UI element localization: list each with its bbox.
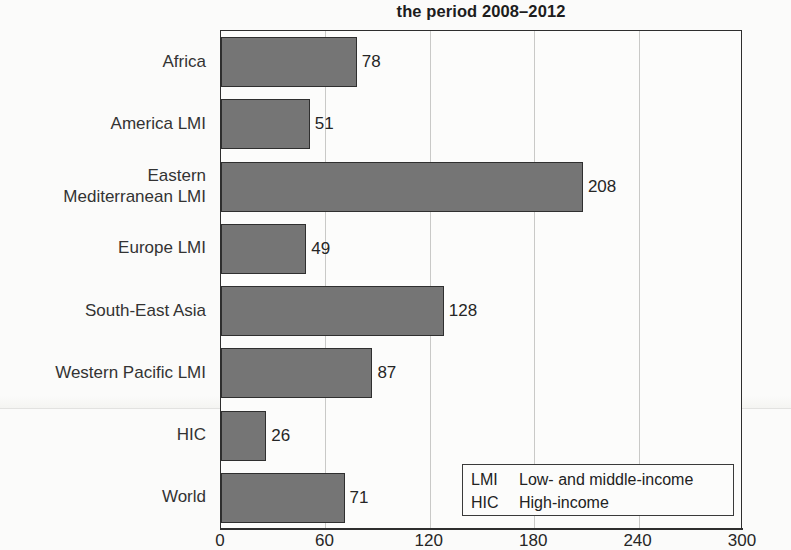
bar-series: 785120849128872671 [221, 31, 741, 528]
legend-row: HIC High-income [471, 491, 733, 514]
bar[interactable] [221, 99, 310, 149]
x-axis-tick-label: 180 [519, 531, 547, 550]
category-label: South-East Asia [0, 300, 214, 321]
x-axis-tick-label: 300 [728, 531, 756, 550]
category-label: Eastern Mediterranean LMI [0, 165, 214, 207]
category-label: Africa [0, 51, 214, 72]
legend-description: Low- and middle-income [519, 468, 733, 491]
legend-box: LMI Low- and middle-income HIC High-inco… [462, 464, 734, 516]
bar-value-label: 49 [306, 239, 330, 259]
bar[interactable] [221, 473, 345, 523]
legend-key: LMI [471, 468, 519, 491]
plot-area: 785120849128872671 [220, 30, 742, 528]
category-axis-labels: AfricaAmerica LMIEastern Mediterranean L… [0, 30, 214, 528]
x-axis-tick-labels: 060120180240300 [0, 531, 791, 550]
x-axis-tick-label: 240 [623, 531, 651, 550]
bar-value-label: 128 [444, 301, 477, 321]
legend-key: HIC [471, 491, 519, 514]
bar-value-label: 78 [357, 52, 381, 72]
x-axis-tick-label: 120 [415, 531, 443, 550]
bar-row[interactable]: 51 [221, 99, 741, 149]
category-label: Western Pacific LMI [0, 362, 214, 383]
bar[interactable] [221, 162, 583, 212]
bar-value-label: 208 [583, 177, 616, 197]
x-axis-tick-label: 0 [215, 531, 224, 550]
x-axis-tick-label: 60 [315, 531, 334, 550]
bar[interactable] [221, 286, 444, 336]
category-label: HIC [0, 424, 214, 445]
category-label: America LMI [0, 113, 214, 134]
bar-value-label: 87 [372, 363, 396, 383]
bar[interactable] [221, 37, 357, 87]
bar-value-label: 51 [310, 114, 334, 134]
bar-row[interactable]: 49 [221, 224, 741, 274]
chart-page: the period 2008–2012 AfricaAmerica LMIEa… [0, 0, 791, 550]
bar-value-label: 26 [266, 426, 290, 446]
bar[interactable] [221, 348, 372, 398]
category-label: World [0, 486, 214, 507]
bar-row[interactable]: 78 [221, 37, 741, 87]
legend-description: High-income [519, 491, 733, 514]
legend-row: LMI Low- and middle-income [471, 468, 733, 491]
gridline [743, 31, 744, 528]
bar-row[interactable]: 128 [221, 286, 741, 336]
bar-row[interactable]: 208 [221, 162, 741, 212]
bar[interactable] [221, 411, 266, 461]
bar-row[interactable]: 87 [221, 348, 741, 398]
bar-value-label: 71 [345, 488, 369, 508]
x-axis-line [220, 528, 743, 530]
bar[interactable] [221, 224, 306, 274]
bar-row[interactable]: 26 [221, 411, 741, 461]
chart-title: the period 2008–2012 [220, 2, 742, 21]
category-label: Europe LMI [0, 237, 214, 258]
